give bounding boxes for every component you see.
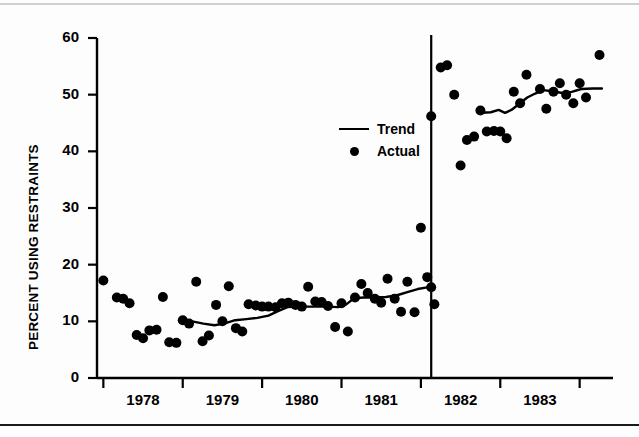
y-tick-label: 60 [45, 28, 79, 45]
x-tick-label: 1982 [426, 391, 496, 408]
chart-legend: Trend Actual [336, 118, 456, 162]
x-tick-label: 1978 [108, 391, 178, 408]
y-axis-title: PERCENT USING RESTRAINTS [26, 144, 41, 350]
x-tick-label: 1981 [346, 391, 416, 408]
y-tick-label: 0 [45, 368, 79, 385]
trend-line-key [336, 128, 372, 131]
y-tick-label: 50 [45, 85, 79, 102]
legend-label-actual: Actual [372, 143, 420, 159]
x-tick-label: 1979 [187, 391, 257, 408]
actual-dot-key [336, 147, 372, 156]
actual-points-group [98, 50, 604, 348]
figure-container: PERCENT USING RESTRAINTS 0102030405060 1… [0, 0, 639, 437]
y-tick-label: 10 [45, 311, 79, 328]
y-tick-label: 20 [45, 255, 79, 272]
legend-label-trend: Trend [372, 121, 415, 137]
y-tick-label: 30 [45, 198, 79, 215]
y-tick-label: 40 [45, 141, 79, 158]
legend-entry-actual: Actual [336, 140, 456, 162]
x-tick-label: 1983 [505, 391, 575, 408]
x-tick-label: 1980 [267, 391, 337, 408]
chart-plot-area [0, 0, 639, 437]
legend-entry-trend: Trend [336, 118, 456, 140]
